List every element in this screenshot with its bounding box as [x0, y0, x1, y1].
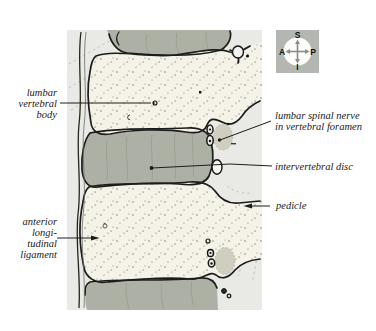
- label-line: body: [0, 109, 57, 120]
- label-line: lumbar spinal nerve: [275, 110, 362, 121]
- label-line: vertebral: [0, 98, 57, 109]
- label-anterior-longitudinal-ligament: anterior longi- tudinal ligament: [0, 216, 57, 260]
- compass-letter-anterior: A: [279, 47, 285, 56]
- label-pedicle: pedicle: [276, 200, 306, 211]
- spine-illustration: [67, 30, 262, 310]
- label-line: in vertebral foramen: [275, 121, 362, 132]
- spinal-nerve-lower: [215, 248, 235, 275]
- foramen-oval: [212, 160, 222, 174]
- label-line: ligament: [0, 249, 57, 260]
- label-line: pedicle: [276, 200, 306, 211]
- compass-letter-posterior: P: [310, 47, 316, 56]
- label-intervertebral-disc: intervertebral disc: [275, 161, 353, 172]
- label-lumbar-spinal-nerve: lumbar spinal nerve in vertebral foramen: [275, 110, 362, 132]
- label-line: intervertebral disc: [275, 161, 353, 172]
- anatomy-panel: [67, 30, 262, 310]
- label-line: tudinal: [0, 238, 57, 249]
- figure-canvas: S P I A lumbar vertebral body lumbar spi…: [0, 0, 376, 331]
- label-line: anterior: [0, 216, 57, 227]
- compass-letter-inferior: I: [276, 63, 319, 72]
- lower-vertebra-shape: [80, 182, 262, 283]
- orientation-compass: S P I A: [276, 30, 319, 73]
- intervertebral-disc-shape: [82, 128, 213, 187]
- label-lumbar-vertebral-body: lumbar vertebral body: [0, 87, 57, 120]
- label-line: longi-: [0, 227, 57, 238]
- compass-letter-superior: S: [276, 31, 319, 40]
- label-line: lumbar: [0, 87, 57, 98]
- spinal-nerve-upper: [214, 124, 233, 150]
